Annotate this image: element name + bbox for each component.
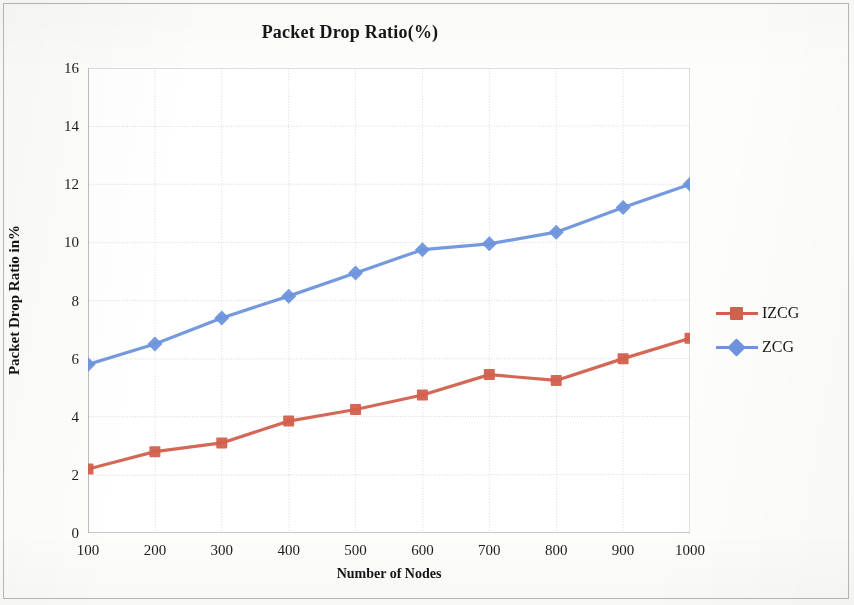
x-tick-label: 700 — [478, 542, 501, 559]
x-tick-label: 400 — [277, 542, 300, 559]
y-tick-label: 6 — [72, 350, 80, 367]
x-tick-label: 300 — [211, 542, 234, 559]
legend-key-izcg — [716, 305, 758, 321]
chart-page: Packet Drop Ratio(%) Packet Drop Ratio i… — [0, 0, 854, 605]
data-series-layer — [88, 68, 690, 533]
y-axis-title: Packet Drop Ratio in% — [6, 225, 23, 375]
y-tick-label: 12 — [64, 176, 79, 193]
chart-legend: IZCGZCG — [716, 296, 844, 364]
y-tick-label: 16 — [64, 60, 79, 77]
plot-area: 0246810121416 10020030040050060070080090… — [88, 68, 690, 533]
legend-key-zcg — [716, 339, 758, 355]
x-axis-title: Number of Nodes — [88, 566, 690, 582]
x-tick-label: 600 — [411, 542, 434, 559]
legend-item-zcg[interactable]: ZCG — [716, 330, 844, 364]
y-tick-label: 4 — [72, 408, 80, 425]
y-tick-label: 10 — [64, 234, 79, 251]
x-tick-label: 1000 — [675, 542, 705, 559]
x-tick-label: 500 — [344, 542, 367, 559]
y-tick-label: 0 — [72, 525, 80, 542]
legend-label: ZCG — [762, 338, 794, 356]
y-tick-label: 14 — [64, 118, 79, 135]
x-tick-label: 900 — [612, 542, 635, 559]
y-tick-label: 8 — [72, 292, 80, 309]
chart-title: Packet Drop Ratio(%) — [0, 22, 700, 43]
legend-label: IZCG — [762, 304, 799, 322]
x-tick-label: 800 — [545, 542, 568, 559]
y-tick-label: 2 — [72, 466, 80, 483]
legend-item-izcg[interactable]: IZCG — [716, 296, 844, 330]
x-tick-label: 200 — [144, 542, 167, 559]
legend-diamond-marker-icon — [727, 338, 745, 356]
x-tick-label: 100 — [77, 542, 100, 559]
legend-square-marker-icon — [730, 307, 743, 320]
